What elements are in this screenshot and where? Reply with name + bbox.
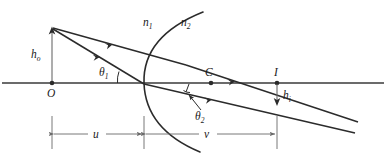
spherical-surface-arc	[144, 12, 203, 152]
label-object-distance: u	[93, 128, 99, 140]
label-image-height-sub: i	[289, 95, 291, 104]
refracted-ray-vertex	[144, 84, 355, 133]
refraction-spherical-surface-figure: O ho n1 n2 θ1 θ2 C I hi u v	[0, 0, 386, 159]
label-image-point: I	[273, 66, 279, 78]
label-center-of-curvature: C	[205, 66, 213, 78]
label-image-height: hi	[283, 89, 291, 104]
label-object-height-sub: o	[37, 54, 41, 63]
label-index-right-sub: 2	[187, 22, 191, 31]
object-point-dot	[50, 81, 55, 86]
normal-tick-theta2	[186, 84, 189, 92]
label-angle-incidence: θ1	[99, 66, 108, 81]
label-index-left: n1	[143, 16, 153, 31]
label-object-point: O	[47, 87, 56, 99]
center-of-curvature-dot	[209, 81, 214, 86]
label-angle-refraction: θ2	[195, 110, 205, 125]
label-theta1-sub: 1	[105, 72, 109, 81]
label-image-distance: v	[204, 128, 210, 140]
label-theta2-sub: 2	[201, 116, 205, 125]
label-index-left-sub: 1	[149, 22, 153, 31]
label-object-height: ho	[31, 48, 41, 63]
optics-diagram: O ho n1 n2 θ1 θ2 C I hi u v	[0, 0, 386, 159]
angle-theta1-arc	[117, 72, 119, 84]
